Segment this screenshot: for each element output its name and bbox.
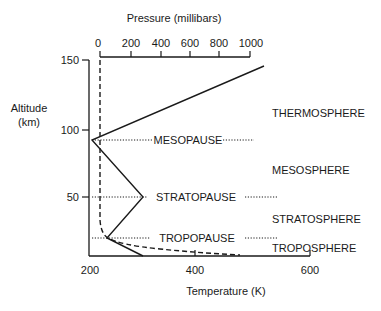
temperature-axis: 200 400 600 Temperature (K) (81, 250, 319, 297)
atmosphere-chart: Pressure (millibars) 0 200 400 600 800 1… (0, 0, 381, 311)
thermosphere-label: THERMOSPHERE (272, 107, 365, 119)
pressure-curve (100, 60, 240, 255)
temperature-axis-label: Temperature (K) (186, 285, 265, 297)
temperature-tick: 200 (81, 264, 99, 276)
altitude-tick: 150 (61, 54, 79, 66)
temperature-curve (92, 66, 264, 256)
altitude-tick: 50 (67, 191, 79, 203)
pressure-axis-label: Pressure (millibars) (127, 12, 222, 24)
pressure-tick: 800 (210, 37, 228, 49)
pressure-tick: 0 (95, 37, 101, 49)
troposphere-label: TROPOSPHERE (272, 242, 356, 254)
stratosphere-label: STRATOSPHERE (272, 213, 361, 225)
stratopause-label: STRATOPAUSE (156, 191, 236, 203)
temperature-tick: 600 (301, 264, 319, 276)
altitude-axis-label: Altitude (11, 102, 48, 114)
mesosphere-label: MESOSPHERE (272, 164, 350, 176)
pressure-tick: 200 (122, 37, 140, 49)
pressure-tick: 1000 (239, 37, 263, 49)
pressure-tick: 400 (152, 37, 170, 49)
mesopause-label: MESOPAUSE (154, 134, 223, 146)
altitude-tick: 100 (61, 124, 79, 136)
pressure-axis: Pressure (millibars) 0 200 400 600 800 1… (95, 12, 263, 57)
temperature-tick: 400 (186, 264, 204, 276)
altitude-axis: 150 100 50 Altitude (km) (11, 54, 89, 256)
pressure-tick: 600 (181, 37, 199, 49)
tropopause-label: TROPOPAUSE (159, 232, 235, 244)
altitude-axis-label-unit: (km) (18, 116, 40, 128)
